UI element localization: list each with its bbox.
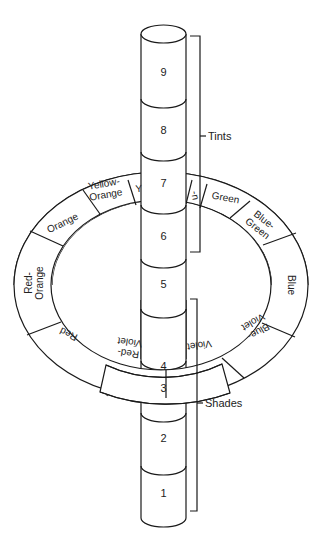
shades-label: Shades [205, 397, 243, 409]
hue-violet: Violet [186, 338, 212, 352]
color-value-diagram: 9 8 7 6 5 4 3 2 1 Yellow- Orange Orange … [0, 0, 322, 544]
segment-9: 9 [160, 66, 166, 78]
segment-4: 4 [160, 360, 166, 372]
hue-red-orange-line1: Red- [23, 272, 34, 294]
tints-label: Tints [208, 130, 232, 142]
segment-7: 7 [160, 177, 166, 189]
hue-red-violet-line2: Violet [116, 335, 142, 349]
segment-8: 8 [160, 124, 166, 136]
tube-segment-labels: 9 8 7 6 5 4 3 2 1 [160, 66, 166, 499]
hue-yellow-green-fragment: -n [189, 190, 201, 201]
segment-3: 3 [160, 382, 166, 394]
hue-red-orange-line2: Orange [34, 266, 45, 300]
segment-5: 5 [160, 278, 166, 290]
segment-1: 1 [160, 487, 166, 499]
shades-bracket [190, 299, 203, 511]
segment-6: 6 [160, 230, 166, 242]
segment-2: 2 [160, 432, 166, 444]
hue-yellow-fragment: Y [135, 183, 143, 195]
hue-blue: Blue [286, 275, 297, 295]
